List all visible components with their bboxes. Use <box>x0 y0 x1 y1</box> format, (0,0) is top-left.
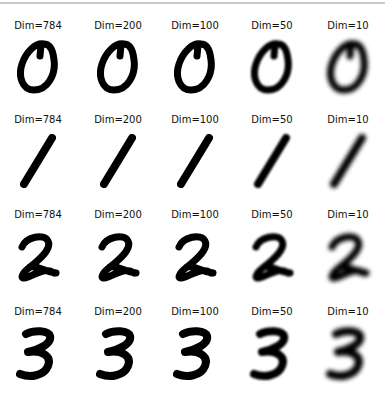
cell-title: Dim=10 <box>310 114 385 126</box>
cell-title: Dim=784 <box>0 114 76 126</box>
digit-image-2 <box>165 225 225 287</box>
digit-image-1 <box>8 130 68 192</box>
grid-cell: Dim=10 <box>310 20 385 114</box>
digit-image-1 <box>242 130 302 192</box>
cell-title: Dim=200 <box>80 306 156 318</box>
cell-title: Dim=10 <box>310 209 385 221</box>
digit-image-0 <box>8 36 68 98</box>
digit-image-3 <box>318 322 378 384</box>
grid-cell: Dim=784 <box>0 306 76 400</box>
grid-cell: Dim=10 <box>310 306 385 400</box>
digit-image-0 <box>165 36 225 98</box>
grid-cell: Dim=50 <box>234 209 310 303</box>
digit-image-1 <box>318 130 378 192</box>
cell-title: Dim=50 <box>234 306 310 318</box>
grid-cell: Dim=200 <box>80 20 156 114</box>
cell-title: Dim=200 <box>80 209 156 221</box>
digit-image-0 <box>88 36 148 98</box>
grid-cell: Dim=200 <box>80 209 156 303</box>
digit-image-1 <box>165 130 225 192</box>
cell-title: Dim=784 <box>0 20 76 32</box>
digit-image-1 <box>88 130 148 192</box>
grid-cell: Dim=10 <box>310 114 385 208</box>
grid-cell: Dim=10 <box>310 209 385 303</box>
grid-cell: Dim=784 <box>0 209 76 303</box>
digit-image-2 <box>242 225 302 287</box>
cell-title: Dim=100 <box>157 209 233 221</box>
digit-image-3 <box>88 322 148 384</box>
cell-title: Dim=200 <box>80 114 156 126</box>
digit-image-3 <box>8 322 68 384</box>
digit-image-0 <box>242 36 302 98</box>
digit-image-3 <box>165 322 225 384</box>
grid-cell: Dim=100 <box>157 209 233 303</box>
cell-title: Dim=50 <box>234 20 310 32</box>
grid-cell: Dim=100 <box>157 114 233 208</box>
cell-title: Dim=784 <box>0 209 76 221</box>
cell-title: Dim=200 <box>80 20 156 32</box>
digit-image-2 <box>88 225 148 287</box>
digit-image-3 <box>242 322 302 384</box>
grid-cell: Dim=100 <box>157 306 233 400</box>
digit-image-2 <box>318 225 378 287</box>
cell-title: Dim=10 <box>310 306 385 318</box>
cell-title: Dim=100 <box>157 20 233 32</box>
grid-cell: Dim=200 <box>80 114 156 208</box>
grid-cell: Dim=50 <box>234 114 310 208</box>
digit-image-0 <box>318 36 378 98</box>
digit-image-2 <box>8 225 68 287</box>
grid-cell: Dim=784 <box>0 114 76 208</box>
cell-title: Dim=100 <box>157 306 233 318</box>
grid-cell: Dim=50 <box>234 20 310 114</box>
cell-title: Dim=50 <box>234 209 310 221</box>
reconstruction-grid: Dim=784Dim=200Dim=100Dim=50Dim=10Dim=784… <box>0 0 385 403</box>
grid-cell: Dim=50 <box>234 306 310 400</box>
grid-cell: Dim=100 <box>157 20 233 114</box>
grid-cell: Dim=784 <box>0 20 76 114</box>
cell-title: Dim=50 <box>234 114 310 126</box>
cell-title: Dim=10 <box>310 20 385 32</box>
cell-title: Dim=784 <box>0 306 76 318</box>
grid-cell: Dim=200 <box>80 306 156 400</box>
cell-title: Dim=100 <box>157 114 233 126</box>
